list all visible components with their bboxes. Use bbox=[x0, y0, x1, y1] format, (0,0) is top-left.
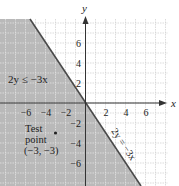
y-tick-label: 6 bbox=[76, 38, 81, 49]
x-tick-label: −4 bbox=[41, 107, 52, 118]
test-point-label-line2: point bbox=[25, 134, 47, 145]
y-tick-label: 4 bbox=[76, 58, 81, 69]
y-tick-label: −4 bbox=[70, 138, 81, 149]
x-tick-label: 4 bbox=[124, 107, 129, 118]
y-tick-label: 2 bbox=[76, 78, 81, 89]
test-point bbox=[54, 131, 57, 134]
x-tick-label: −6 bbox=[21, 107, 32, 118]
y-tick-label: −6 bbox=[70, 158, 81, 169]
y-axis-label: y bbox=[81, 2, 87, 14]
y-tick-label: −2 bbox=[70, 118, 81, 129]
test-point-label-line1: Test bbox=[25, 123, 42, 134]
x-tick-label: −2 bbox=[61, 107, 72, 118]
x-tick-label: 6 bbox=[144, 107, 149, 118]
inequality-graph: x y −6 −4 −2 2 4 6 6 4 2 −2 −4 −6 2y ≤ −… bbox=[0, 0, 179, 186]
inequality-label: 2y ≤ −3x bbox=[8, 73, 48, 85]
test-point-label-line3: (−3, −3) bbox=[24, 145, 59, 157]
x-tick-label: 2 bbox=[104, 107, 109, 118]
y-axis-arrow-icon bbox=[83, 16, 89, 24]
x-axis-label: x bbox=[170, 97, 176, 109]
